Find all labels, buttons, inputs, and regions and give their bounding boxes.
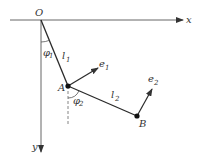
angle-2-label: φ 2: [73, 95, 84, 108]
point-a-label: A: [57, 82, 65, 93]
svg-text:l: l: [111, 89, 114, 100]
unit-1-label: e 1: [99, 58, 109, 72]
svg-text:2: 2: [114, 95, 120, 103]
point-b-label: B: [138, 118, 146, 129]
svg-text:1: 1: [105, 64, 109, 72]
svg-text:l: l: [62, 50, 65, 61]
unit-vector-e2: [137, 89, 152, 116]
angle-1-label: φ 1: [43, 47, 53, 60]
svg-text:2: 2: [153, 79, 159, 87]
svg-text:1: 1: [66, 56, 70, 64]
angle-arc-phi1: [41, 40, 50, 42]
y-axis-label: y: [31, 141, 38, 152]
svg-text:1: 1: [49, 52, 53, 60]
point-a: [65, 83, 70, 88]
svg-text:2: 2: [78, 100, 84, 108]
length-1-label: l 1: [62, 50, 70, 64]
x-axis-label: x: [186, 14, 192, 25]
pendulum-diagram: O x y A B l 1 l 2 φ 1 φ 2 e 1 e 2: [0, 0, 197, 163]
origin-label: O: [35, 7, 43, 18]
length-2-label: l 2: [111, 89, 120, 103]
unit-2-label: e 2: [148, 73, 159, 87]
unit-vector-e1: [68, 68, 98, 86]
